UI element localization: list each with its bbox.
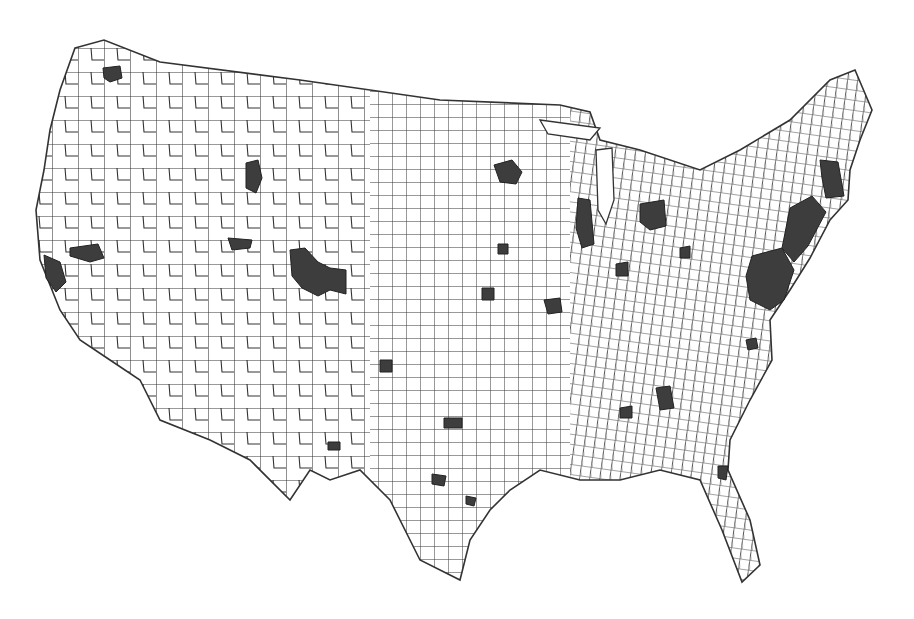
shaded-county-nashville-area [620, 406, 632, 418]
shaded-county-albuquerque-area [328, 442, 340, 450]
county-borders [0, 0, 914, 619]
shaded-county-dallas-area [444, 418, 462, 428]
shaded-county-kansas-city-area [482, 288, 494, 300]
shaded-county-salt-lake-area [228, 238, 252, 250]
shaded-county-raleigh-area [746, 338, 758, 350]
shaded-county-indianapolis-area [616, 262, 628, 276]
us-county-map [0, 0, 914, 619]
shaded-county-philly-dc-corridor [746, 248, 794, 310]
shaded-county-columbus-area [680, 246, 690, 258]
shaded-county-austin-area [432, 474, 446, 486]
shaded-county-detroit-area [640, 200, 666, 230]
shaded-county-houston-area [466, 496, 476, 506]
shaded-county-jacksonville-area [718, 466, 728, 480]
shaded-county-des-moines-area [498, 244, 508, 254]
shaded-county-wichita-area [380, 360, 392, 372]
